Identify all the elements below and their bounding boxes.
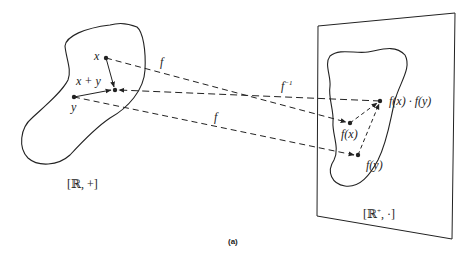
label-x: x bbox=[94, 50, 99, 62]
edge-fy-product bbox=[358, 104, 379, 155]
diagram-graphics bbox=[0, 0, 469, 258]
figure-caption: (a) bbox=[228, 237, 238, 246]
label-product: f(x) · f(y) bbox=[389, 95, 431, 107]
label-f-inverse: f−1 bbox=[281, 80, 293, 92]
point-y bbox=[72, 95, 76, 99]
point-sum bbox=[113, 88, 117, 92]
left-set-label: [ℝ, +] bbox=[67, 178, 98, 190]
label-f-top: f bbox=[160, 56, 163, 68]
right-set-label-tail: , ·] bbox=[381, 207, 395, 221]
label-sum: x + y bbox=[76, 75, 101, 87]
vector-y-sum bbox=[74, 90, 111, 97]
label-y: y bbox=[71, 101, 76, 113]
figure-canvas: x y x + y f f f−1 f(x) f(y) f(x) · f(y) … bbox=[0, 0, 469, 258]
map-f-inverse bbox=[119, 90, 380, 101]
map-f-y bbox=[74, 97, 354, 155]
label-fx: f(x) bbox=[341, 128, 358, 140]
right-set-label-base: [ℝ bbox=[363, 207, 377, 221]
vector-x-sum bbox=[106, 58, 114, 87]
left-set-region bbox=[22, 24, 146, 165]
point-x bbox=[104, 56, 108, 60]
point-fx bbox=[348, 121, 352, 125]
right-set-label: [ℝ+, ·] bbox=[363, 208, 395, 220]
plane-frame bbox=[317, 13, 455, 239]
label-f-bottom: f bbox=[214, 111, 217, 123]
label-fy: f(y) bbox=[366, 159, 383, 171]
label-f-inverse-exp: −1 bbox=[284, 79, 292, 87]
point-fy bbox=[356, 153, 360, 157]
point-product bbox=[378, 99, 382, 103]
map-f-x bbox=[106, 58, 346, 122]
